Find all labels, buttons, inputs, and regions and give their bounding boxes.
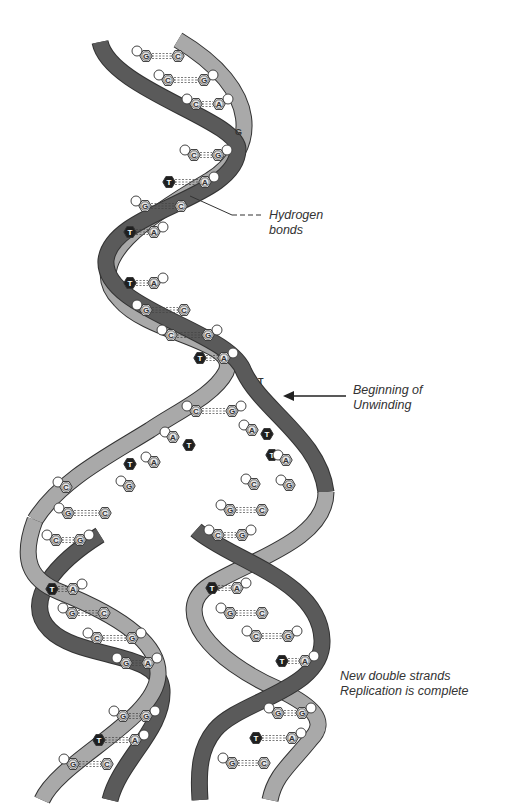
base-c-icon: C: [91, 633, 103, 644]
base-g-icon: G: [283, 480, 295, 491]
base-a-icon: A: [148, 278, 160, 289]
base-c-icon: C: [250, 631, 262, 642]
svg-text:C: C: [178, 202, 184, 211]
svg-text:C: C: [165, 76, 171, 85]
base-a-icon: A: [129, 735, 141, 746]
svg-text:G: G: [69, 609, 75, 618]
base-t-icon: T: [46, 584, 58, 595]
svg-text:A: A: [145, 659, 151, 668]
svg-text:C: C: [101, 609, 107, 618]
base-a-icon: A: [280, 455, 292, 466]
svg-text:G: G: [215, 151, 221, 160]
base-pair: GC: [54, 503, 111, 518]
svg-text:A: A: [151, 458, 157, 467]
replication-complete-label-line1: New double strands: [340, 669, 469, 684]
base-g-icon: G: [74, 535, 86, 546]
hydrogen-bonds-label: Hydrogen bonds: [269, 208, 323, 238]
base-a-icon: A: [148, 227, 160, 238]
base-t-icon: T: [261, 429, 273, 440]
svg-text:G: G: [201, 76, 207, 85]
svg-text:C: C: [181, 306, 187, 315]
svg-text:A: A: [216, 100, 222, 109]
svg-text:C: C: [259, 506, 265, 515]
base-c-icon: C: [99, 508, 111, 519]
base-a-icon: A: [167, 432, 179, 443]
svg-text:A: A: [70, 585, 76, 594]
base-c-icon: C: [258, 758, 270, 769]
svg-text:T: T: [128, 228, 133, 237]
base-c-icon: C: [178, 305, 190, 316]
base-t-icon: T: [276, 656, 288, 667]
svg-text:A: A: [151, 228, 157, 237]
base-g-icon: G: [67, 759, 79, 770]
svg-text:T: T: [254, 734, 259, 743]
base-g-icon: G: [224, 505, 236, 516]
base-c-icon: C: [190, 99, 202, 110]
hydrogen-bonds-label-line2: bonds: [269, 223, 323, 238]
base-t-icon: T: [93, 735, 105, 746]
svg-text:C: C: [215, 531, 221, 540]
base-c-icon: C: [50, 535, 62, 546]
base-g-icon: G: [202, 330, 214, 341]
svg-text:G: G: [70, 760, 76, 769]
base-t-icon: T: [124, 459, 136, 470]
svg-text:G: G: [227, 609, 233, 618]
svg-text:G: G: [142, 202, 148, 211]
base-t-icon: T: [163, 177, 175, 188]
svg-text:C: C: [175, 52, 181, 61]
svg-text:T: T: [198, 354, 203, 363]
base-c-icon: C: [248, 479, 260, 490]
base-g-icon: G: [224, 608, 236, 619]
svg-text:G: G: [299, 709, 305, 718]
base-g-icon: G: [140, 51, 152, 62]
free-letter-t: T: [258, 376, 264, 386]
unpaired-bases: ATTAGCATTACG: [53, 420, 295, 492]
svg-text:T: T: [128, 279, 133, 288]
base-c-icon: C: [256, 505, 268, 516]
svg-text:C: C: [102, 509, 108, 518]
base-pair: TA: [250, 728, 306, 743]
base-t-icon: T: [183, 440, 195, 451]
base-a-icon: A: [246, 425, 258, 436]
svg-text:T: T: [50, 585, 55, 594]
base-g-icon: G: [140, 711, 152, 722]
base-g-icon: G: [62, 508, 74, 519]
base-pair: CG: [154, 70, 218, 85]
base-g-icon: G: [198, 75, 210, 86]
svg-text:G: G: [275, 709, 281, 718]
unwinding-label: Beginning of Unwinding: [353, 383, 423, 413]
base-c-icon: C: [175, 201, 187, 212]
svg-text:T: T: [187, 441, 192, 450]
svg-text:C: C: [251, 480, 257, 489]
unwinding-arrow-head: [283, 391, 294, 401]
base-c-icon: C: [188, 150, 200, 161]
base-pair: GC: [218, 753, 270, 768]
svg-text:A: A: [170, 433, 176, 442]
svg-text:A: A: [289, 734, 295, 743]
svg-text:G: G: [285, 632, 291, 641]
svg-text:T: T: [280, 657, 285, 666]
svg-text:A: A: [202, 178, 208, 187]
svg-text:C: C: [53, 536, 59, 545]
base-pair: GC: [216, 500, 268, 515]
base-t-icon: T: [250, 733, 262, 744]
base-a-icon: A: [231, 583, 243, 594]
svg-text:G: G: [77, 536, 83, 545]
svg-text:A: A: [249, 426, 255, 435]
base-pair: CG: [182, 401, 246, 416]
unwinding-label-line1: Beginning of: [353, 383, 423, 398]
base-a-icon: A: [199, 177, 211, 188]
svg-text:C: C: [104, 760, 110, 769]
svg-text:A: A: [234, 584, 240, 593]
svg-text:C: C: [94, 634, 100, 643]
base-c-icon: C: [101, 759, 113, 770]
svg-text:G: G: [129, 634, 135, 643]
base-g-icon: G: [139, 201, 151, 212]
svg-text:A: A: [283, 456, 289, 465]
svg-text:C: C: [259, 609, 265, 618]
svg-text:G: G: [143, 52, 149, 61]
base-g-icon: G: [212, 150, 224, 161]
base-a-icon: A: [299, 656, 311, 667]
svg-text:G: G: [120, 712, 126, 721]
base-c-icon: C: [162, 75, 174, 86]
